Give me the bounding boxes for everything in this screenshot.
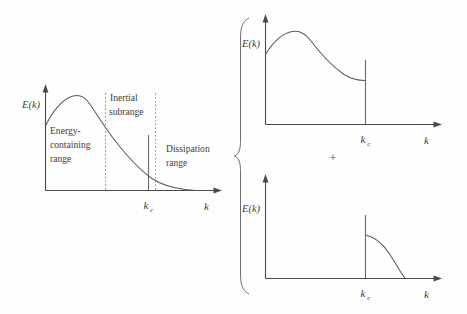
subgrid-x-axis-label: k xyxy=(424,288,430,300)
energy-spectrum-diagram: E(k) k k c Energy- containing range Iner… xyxy=(0,0,467,314)
region-energy-containing-line-1: Energy- xyxy=(50,125,81,136)
subgrid-scales-plot: E(k) k k c xyxy=(241,174,442,302)
subgrid-y-axis-arrow xyxy=(263,174,269,183)
region-energy-containing-line-2: containing xyxy=(50,139,91,150)
resolved-scales-plot: E(k) k k c xyxy=(241,14,442,148)
region-dissipation-line-1: Dissipation xyxy=(166,143,210,154)
region-inertial-subrange-line-1: Inertial xyxy=(110,92,138,103)
full-spectrum-x-axis-label: k xyxy=(204,200,210,212)
resolved-y-axis-arrow xyxy=(263,14,269,23)
subgrid-x-axis-arrow xyxy=(434,276,443,282)
region-label-energy-containing: Energy- containing range xyxy=(50,125,91,164)
full-spectrum-plot: E(k) k k c Energy- containing range Iner… xyxy=(21,84,222,214)
region-label-inertial-subrange: Inertial subrange xyxy=(109,92,144,117)
resolved-y-axis-label: E(k) xyxy=(241,38,261,50)
full-spectrum-y-axis-label: E(k) xyxy=(21,99,41,111)
subgrid-cutoff-label: k xyxy=(361,287,367,299)
region-label-dissipation-range: Dissipation range xyxy=(166,143,210,168)
figure-canvas: E(k) k k c Energy- containing range Iner… xyxy=(0,0,467,314)
full-spectrum-x-axis-arrow xyxy=(214,188,223,194)
plus-operator: + xyxy=(329,150,336,165)
resolved-x-axis-arrow xyxy=(434,122,443,128)
resolved-cutoff-subscript: c xyxy=(367,140,371,148)
full-spectrum-cutoff-subscript: c xyxy=(150,206,154,214)
resolved-curve xyxy=(266,31,365,80)
subgrid-y-axis-label: E(k) xyxy=(241,203,261,215)
region-energy-containing-line-3: range xyxy=(50,153,71,164)
full-spectrum-y-axis-arrow xyxy=(43,84,49,93)
resolved-x-axis-label: k xyxy=(424,134,430,146)
resolved-cutoff-label: k xyxy=(361,133,367,145)
full-spectrum-cutoff-label: k xyxy=(144,199,150,211)
region-inertial-subrange-line-2: subrange xyxy=(109,106,144,117)
subgrid-cutoff-subscript: c xyxy=(367,294,371,302)
decomposition-brace xyxy=(235,18,250,294)
subgrid-curve xyxy=(366,235,406,278)
region-dissipation-line-2: range xyxy=(166,157,187,168)
